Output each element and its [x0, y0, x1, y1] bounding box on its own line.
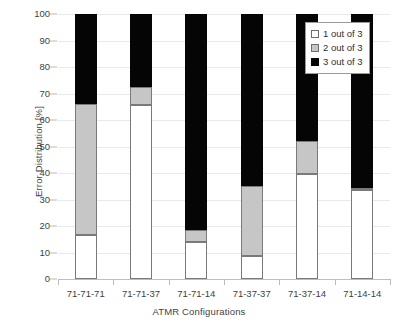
stacked-bar-chart: Error Distribution [%] 01020304050607080…	[0, 0, 398, 329]
white-square-icon	[311, 30, 319, 38]
bar-group[interactable]	[241, 14, 263, 279]
y-tick-mark	[50, 93, 57, 94]
bar-segment[interactable]	[75, 104, 97, 235]
chart-legend: 1 out of 3 2 out of 3 3 out of 3	[305, 22, 370, 74]
y-tick-label: 50	[22, 142, 50, 152]
bar-segment[interactable]	[130, 87, 152, 106]
y-tick-label: 40	[22, 168, 50, 178]
bar-segment[interactable]	[241, 256, 263, 279]
bar-segment[interactable]	[351, 188, 373, 191]
y-tick-label: 100	[22, 9, 50, 19]
bar-segment[interactable]	[351, 190, 373, 279]
bar-segment[interactable]	[130, 14, 152, 87]
legend-item-3-out-of-3[interactable]: 3 out of 3	[311, 55, 363, 69]
y-tick-mark	[50, 226, 57, 227]
legend-label: 3 out of 3	[323, 57, 363, 67]
bar-segment[interactable]	[75, 14, 97, 104]
black-square-icon	[311, 58, 319, 66]
x-tick-mark	[169, 279, 170, 285]
x-tick-label: 71-14-14	[322, 288, 398, 299]
y-tick-mark	[50, 279, 57, 280]
gray-square-icon	[311, 44, 319, 52]
y-tick-label: 90	[22, 36, 50, 46]
legend-item-2-out-of-3[interactable]: 2 out of 3	[311, 41, 363, 55]
y-tick-label: 70	[22, 89, 50, 99]
y-tick-label: 20	[22, 221, 50, 231]
y-tick-mark	[50, 173, 57, 174]
bar-segment[interactable]	[75, 235, 97, 279]
x-tick-mark	[390, 279, 391, 285]
bar-segment[interactable]	[241, 14, 263, 186]
y-tick-mark	[50, 120, 57, 121]
legend-label: 1 out of 3	[323, 29, 363, 39]
bar-stack	[241, 14, 263, 279]
y-tick-mark	[50, 14, 57, 15]
x-tick-mark	[279, 279, 280, 285]
bar-stack	[185, 14, 207, 279]
legend-item-1-out-of-3[interactable]: 1 out of 3	[311, 27, 363, 41]
y-tick-label: 80	[22, 62, 50, 72]
bar-segment[interactable]	[185, 230, 207, 242]
x-tick-mark	[224, 279, 225, 285]
bar-segment[interactable]	[296, 141, 318, 174]
legend-label: 2 out of 3	[323, 43, 363, 53]
bar-segment[interactable]	[185, 242, 207, 279]
y-tick-label: 60	[22, 115, 50, 125]
bar-segment[interactable]	[241, 186, 263, 256]
bar-stack	[75, 14, 97, 279]
bar-segment[interactable]	[296, 174, 318, 279]
y-tick-mark	[50, 252, 57, 253]
bar-group[interactable]	[130, 14, 152, 279]
x-tick-mark	[58, 279, 59, 285]
y-tick-mark	[50, 67, 57, 68]
y-tick-label: 10	[22, 248, 50, 258]
x-axis-title: ATMR Configurations	[0, 306, 398, 317]
y-tick-label: 0	[22, 274, 50, 284]
x-tick-mark	[113, 279, 114, 285]
y-tick-mark	[50, 40, 57, 41]
bar-segment[interactable]	[130, 105, 152, 279]
y-tick-label: 30	[22, 195, 50, 205]
bar-stack	[130, 14, 152, 279]
y-tick-mark	[50, 199, 57, 200]
bar-group[interactable]	[75, 14, 97, 279]
bar-segment[interactable]	[185, 14, 207, 230]
bar-group[interactable]	[185, 14, 207, 279]
y-tick-mark	[50, 146, 57, 147]
x-tick-mark	[335, 279, 336, 285]
